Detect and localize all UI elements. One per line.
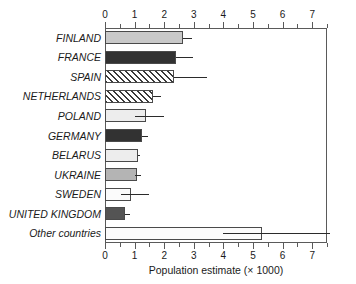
x-tick-label-bottom-4: 4 <box>213 250 233 261</box>
x-tick-top-4 <box>223 22 224 28</box>
x-tick-label-top-2: 2 <box>154 9 174 20</box>
x-minor-tick-bottom-0.5 <box>120 243 121 247</box>
x-tick-bottom-4 <box>223 243 224 249</box>
x-tick-label-bottom-2: 2 <box>154 250 174 261</box>
x-tick-label-bottom-5: 5 <box>243 250 263 261</box>
x-tick-bottom-6 <box>283 243 284 249</box>
x-tick-label-top-6: 6 <box>273 9 293 20</box>
x-minor-tick-top-3.5 <box>209 24 210 28</box>
x-tick-label-bottom-0: 0 <box>95 250 115 261</box>
x-minor-tick-top-4.5 <box>238 24 239 28</box>
bar-united-kingdom <box>105 207 125 220</box>
bar-finland <box>105 31 183 44</box>
category-label-france: FRANCE <box>0 51 101 63</box>
category-label-ukraine: UKRAINE <box>0 169 101 181</box>
category-label-other-countries: Other countries <box>0 227 101 239</box>
x-tick-top-3 <box>194 22 195 28</box>
x-tick-bottom-0 <box>105 243 106 249</box>
x-axis-title: Population estimate (× 1000) <box>105 264 327 276</box>
x-minor-tick-bottom-5.5 <box>268 243 269 247</box>
error-bar-sweden <box>121 194 149 195</box>
error-bar-ukraine <box>135 175 141 176</box>
category-label-netherlands: NETHERLANDS <box>0 90 101 102</box>
x-minor-tick-bottom-2.5 <box>179 243 180 247</box>
x-tick-top-0 <box>105 22 106 28</box>
bar-netherlands <box>105 90 153 103</box>
error-bar-other-countries <box>223 233 330 234</box>
x-tick-label-top-0: 0 <box>95 9 115 20</box>
x-minor-tick-bottom-1.5 <box>149 243 150 247</box>
error-bar-poland <box>135 116 164 117</box>
error-bar-netherlands <box>153 96 161 97</box>
bar-france <box>105 51 176 64</box>
x-tick-label-bottom-1: 1 <box>125 250 145 261</box>
x-tick-label-bottom-7: 7 <box>302 250 322 261</box>
category-label-united-kingdom: UNITED KINGDOM <box>0 208 101 220</box>
bar-belarus <box>105 149 138 162</box>
x-minor-tick-bottom-4.5 <box>238 243 239 247</box>
x-minor-tick-top-0.5 <box>120 24 121 28</box>
x-tick-top-2 <box>164 22 165 28</box>
x-tick-top-1 <box>135 22 136 28</box>
x-tick-bottom-7 <box>312 243 313 249</box>
x-tick-label-top-7: 7 <box>302 9 322 20</box>
x-tick-label-top-5: 5 <box>243 9 263 20</box>
bar-ukraine <box>105 168 137 181</box>
error-bar-belarus <box>138 155 140 156</box>
x-minor-tick-bottom-3.5 <box>209 243 210 247</box>
error-bar-germany <box>142 136 148 137</box>
x-tick-bottom-1 <box>135 243 136 249</box>
x-tick-label-bottom-3: 3 <box>184 250 204 261</box>
bar-germany <box>105 129 142 142</box>
x-tick-top-7 <box>312 22 313 28</box>
error-bar-finland <box>183 38 192 39</box>
x-tick-label-bottom-6: 6 <box>273 250 293 261</box>
bar-spain <box>105 70 174 83</box>
category-label-belarus: BELARUS <box>0 149 101 161</box>
x-tick-top-6 <box>283 22 284 28</box>
x-minor-tick-top-2.5 <box>179 24 180 28</box>
x-minor-tick-bottom-6.5 <box>297 243 298 247</box>
x-tick-label-top-1: 1 <box>125 9 145 20</box>
x-tick-top-5 <box>253 22 254 28</box>
category-label-sweden: SWEDEN <box>0 188 101 200</box>
x-tick-bottom-5 <box>253 243 254 249</box>
x-minor-tick-top-6.5 <box>297 24 298 28</box>
x-minor-tick-top-1.5 <box>149 24 150 28</box>
x-minor-tick-top-7.5 <box>327 24 328 28</box>
x-tick-bottom-2 <box>164 243 165 249</box>
category-label-germany: GERMANY <box>0 130 101 142</box>
category-label-poland: POLAND <box>0 110 101 122</box>
category-label-finland: FINLAND <box>0 32 101 44</box>
bar-chart: 0011223344556677 FINLANDFRANCESPAINNETHE… <box>0 0 356 284</box>
error-bar-united-kingdom <box>125 214 131 215</box>
category-label-spain: SPAIN <box>0 71 101 83</box>
error-bar-france <box>176 57 193 58</box>
x-minor-tick-bottom-7.5 <box>327 243 328 247</box>
error-bar-spain <box>174 77 207 78</box>
x-tick-bottom-3 <box>194 243 195 249</box>
x-minor-tick-top-5.5 <box>268 24 269 28</box>
x-tick-label-top-3: 3 <box>184 9 204 20</box>
x-tick-label-top-4: 4 <box>213 9 233 20</box>
